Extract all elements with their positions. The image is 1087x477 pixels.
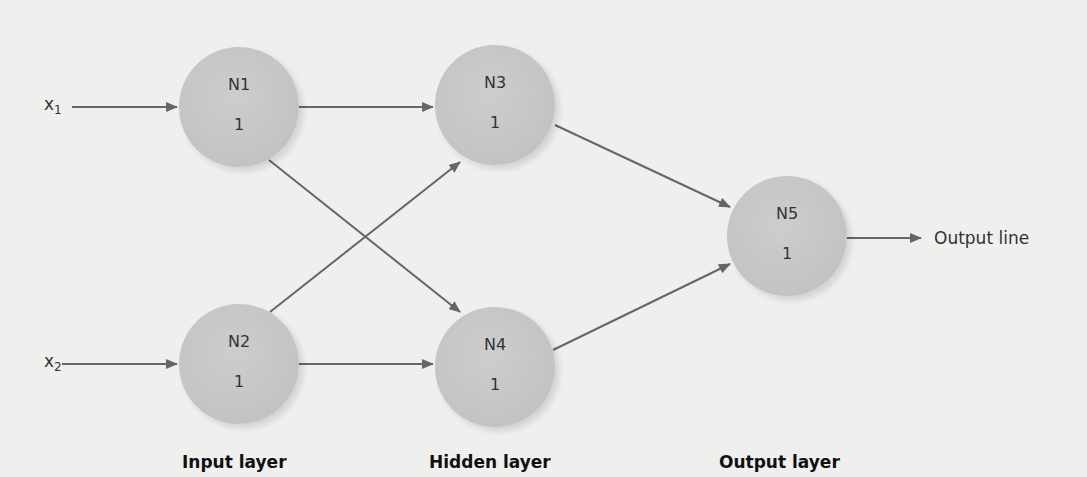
node-name: N2 <box>179 332 299 351</box>
node-n4: N4 1 <box>435 307 555 427</box>
input-x1-label: x1 <box>44 94 62 117</box>
node-name: N5 <box>727 204 847 223</box>
node-n2: N2 1 <box>179 304 299 424</box>
arrow-n3-n5 <box>555 125 730 207</box>
hidden-layer-label: Hidden layer <box>429 452 551 472</box>
node-n5: N5 1 <box>727 176 847 296</box>
input-layer-label: Input layer <box>182 452 287 472</box>
arrow-n4-n5 <box>553 264 730 350</box>
output-layer-label: Output layer <box>719 452 840 472</box>
node-name: N3 <box>435 73 555 92</box>
node-value: 1 <box>435 113 555 132</box>
input-x2-label: x2 <box>44 351 62 374</box>
node-name: N4 <box>435 335 555 354</box>
node-n1: N1 1 <box>179 47 299 167</box>
node-value: 1 <box>179 115 299 134</box>
node-value: 1 <box>179 372 299 391</box>
node-value: 1 <box>435 375 555 394</box>
output-line-label: Output line <box>934 228 1029 248</box>
node-name: N1 <box>179 75 299 94</box>
node-n3: N3 1 <box>435 45 555 165</box>
node-value: 1 <box>727 244 847 263</box>
